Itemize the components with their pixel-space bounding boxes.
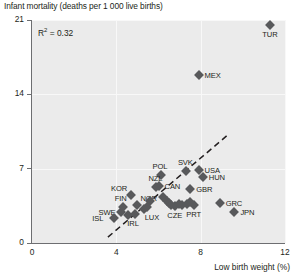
data-point-label: JPN: [240, 208, 254, 217]
y-axis-line: [31, 20, 32, 244]
data-point-label: GBR: [196, 184, 212, 193]
y-axis-tick-label: 21: [0, 14, 24, 24]
gridline-vertical: [285, 20, 286, 243]
y-axis-tick-mark: [27, 94, 32, 95]
y-axis-tick-label: 0: [0, 237, 24, 247]
data-point-label: LUX: [145, 213, 159, 222]
data-point-label: GRC: [226, 198, 243, 207]
y-axis-tick-label: 7: [0, 163, 24, 173]
y-axis-tick-label: 14: [0, 88, 24, 98]
scatter-chart: Infant mortality (deaths per 1 000 live …: [0, 0, 296, 277]
data-point-label: KOR: [111, 184, 127, 193]
data-point-label: CAN: [165, 181, 181, 190]
data-point-label: NZL: [148, 173, 162, 182]
data-point-label: IRL: [127, 219, 139, 228]
data-point-label: POL: [153, 162, 168, 171]
data-point-label: PRT: [186, 209, 201, 218]
data-point-label: CZE: [167, 210, 182, 219]
y-axis-tick-mark: [27, 168, 32, 169]
y-axis-tick-mark: [27, 20, 32, 21]
chart-title: Infant mortality (deaths per 1 000 live …: [4, 1, 163, 11]
data-point-label: SVK: [178, 157, 193, 166]
data-point-label: FIN: [115, 193, 127, 202]
plot-area: TURMEXPOLSVKUSAHUNCANGBRKORNZLNORSWEFINI…: [32, 20, 285, 243]
data-point-label: TUR: [262, 30, 277, 39]
data-point-label: HUN: [209, 173, 225, 182]
x-axis-tick-label: 12: [270, 247, 296, 257]
data-point-label: MEX: [205, 71, 221, 80]
x-axis-tick-label: 4: [101, 247, 131, 257]
x-axis-title: Low birth weight (%): [214, 262, 290, 272]
x-axis-line: [32, 243, 285, 244]
r-squared-annotation: R2 = 0.32: [38, 27, 73, 38]
x-axis-tick-label: 8: [186, 247, 216, 257]
data-point-label: ISL: [92, 213, 103, 222]
y-axis-tick-mark: [27, 243, 32, 244]
x-axis-tick-label: 0: [17, 247, 47, 257]
